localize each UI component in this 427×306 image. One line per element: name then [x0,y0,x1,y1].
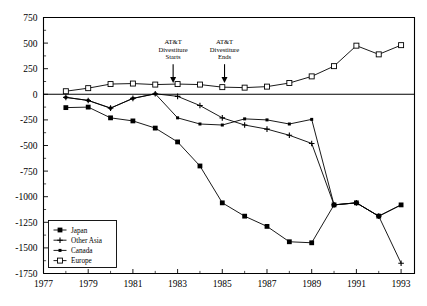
x-tick-label: 1983 [168,279,187,289]
legend-marker [59,249,62,252]
data-point [220,200,225,205]
data-point [376,52,381,57]
data-point [333,203,336,206]
data-point [310,118,313,121]
data-point [264,126,270,132]
series-path [66,94,401,216]
data-point [197,103,203,109]
legend-marker [58,228,63,233]
annotations-group: AT&TDivestitureStartsAT&TDivestitureEnds [158,38,239,83]
data-point [242,122,248,128]
data-point [64,96,67,99]
annotation-text-line: Starts [166,53,181,60]
chart-container: 7505002500-250-500-750-1000-1250-1500-17… [0,0,427,306]
data-point [175,82,180,87]
data-point [153,82,158,87]
data-point [377,215,380,218]
legend-item-label: Canada [71,247,93,255]
x-tick-label: 1987 [257,279,276,289]
annotation-text-line: Divestiture [158,46,187,53]
legend-item-label: Other Asia [71,237,103,245]
data-point [87,99,90,102]
data-point [154,92,157,95]
data-point [130,119,135,124]
data-point [399,43,404,48]
x-tick-label: 1989 [302,279,321,289]
data-point [287,132,293,138]
data-point [175,140,180,145]
y-tick-label: 0 [33,90,38,100]
y-tick-label: -750 [20,167,38,177]
data-point [355,201,358,204]
y-tick-label: 500 [23,39,38,49]
data-point [265,224,270,229]
x-tick-label: 1979 [79,279,98,289]
x-tick-label: 1977 [34,279,53,289]
data-point [63,105,68,110]
data-point [108,82,113,87]
data-point [220,85,225,90]
data-point [153,126,158,131]
data-point [221,124,224,127]
data-point [108,115,113,120]
annotation-text-line: Ends [218,53,232,60]
data-point [197,82,202,87]
data-point [398,260,404,266]
data-point [309,74,314,79]
x-tick-label: 1991 [347,279,366,289]
legend-item-label: Japan [71,227,88,235]
x-axis-ticks: 197719791981198319851987198919911993 [34,269,411,289]
data-point [198,164,203,169]
line-chart: 7505002500-250-500-750-1000-1250-1500-17… [0,0,427,306]
y-tick-label: -1000 [15,192,37,202]
data-point [242,214,247,219]
data-point [264,84,269,89]
data-point [265,118,268,121]
data-point [176,116,179,119]
y-tick-label: -1500 [15,243,37,253]
data-point [400,203,403,206]
legend-item-label: Europe [71,257,92,265]
data-point [287,81,292,86]
y-tick-label: 250 [23,64,38,74]
y-tick-label: -250 [20,115,38,125]
data-point [354,43,359,48]
data-point [63,89,68,94]
data-point [309,240,314,245]
data-point [332,64,337,69]
data-point [288,122,291,125]
y-tick-label: 750 [23,13,38,23]
annotation-arrow-head [222,77,228,83]
data-point [131,97,134,100]
data-point [287,239,292,244]
x-tick-label: 1985 [213,279,232,289]
legend-marker [58,258,63,263]
data-point [86,86,91,91]
chart-legend: JapanOther AsiaCanadaEurope [49,221,117,268]
series-canada [64,92,402,217]
annotation-text-line: AT&T [165,38,182,45]
x-tick-label: 1993 [392,279,411,289]
annotation-att-divestiture-ends: AT&TDivestitureEnds [210,38,239,83]
data-point [86,105,91,110]
data-point [309,141,315,147]
data-point [243,117,246,120]
data-point [219,115,225,121]
data-point [109,107,112,110]
data-point [242,85,247,90]
y-tick-label: -1250 [15,218,37,228]
annotation-text-line: Divestiture [210,46,239,53]
y-tick-label: -1750 [15,269,37,279]
annotation-text-line: AT&T [216,38,233,45]
data-point [198,122,201,125]
x-tick-label: 1981 [123,279,142,289]
y-tick-label: -500 [20,141,38,151]
data-point [130,81,135,86]
annotation-att-divestiture-starts: AT&TDivestitureStarts [158,38,187,83]
